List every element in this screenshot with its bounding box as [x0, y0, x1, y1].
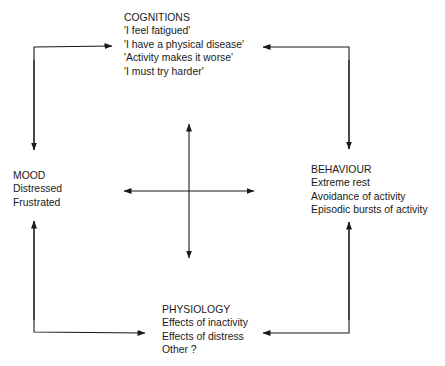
arrow-behaviour-cognitions	[263, 47, 349, 149]
behaviour-item: Extreme rest	[311, 176, 428, 189]
arrow-behaviour-physiology	[263, 222, 349, 333]
cognitions-item: 'I feel fatigued'	[124, 24, 244, 37]
mood-item: Frustrated	[13, 196, 62, 209]
node-mood: MOOD Distressed Frustrated	[13, 169, 62, 209]
cognitions-item: 'I must try harder'	[124, 65, 244, 78]
physiology-item: Effects of inactivity	[162, 316, 248, 329]
cognitions-item: 'I have a physical disease'	[124, 38, 244, 51]
cognitions-item: 'Activity makes it worse'	[124, 51, 244, 64]
behaviour-item: Avoidance of activity	[311, 190, 428, 203]
arrow-mood-physiology	[34, 221, 145, 333]
behaviour-title: BEHAVIOUR	[311, 163, 428, 176]
behaviour-item: Episodic bursts of activity	[311, 203, 428, 216]
mood-item: Distressed	[13, 182, 62, 195]
arrow-mood-cognitions	[34, 46, 112, 150]
physiology-item: Effects of distress	[162, 330, 248, 343]
physiology-title: PHYSIOLOGY	[162, 303, 248, 316]
node-behaviour: BEHAVIOUR Extreme rest Avoidance of acti…	[311, 163, 428, 217]
center-cross-arrows	[124, 124, 254, 258]
cognitions-title: COGNITIONS	[124, 11, 244, 24]
node-cognitions: COGNITIONS 'I feel fatigued' 'I have a p…	[124, 11, 244, 78]
node-physiology: PHYSIOLOGY Effects of inactivity Effects…	[162, 303, 248, 357]
mood-title: MOOD	[13, 169, 62, 182]
physiology-item: Other ?	[162, 343, 248, 356]
